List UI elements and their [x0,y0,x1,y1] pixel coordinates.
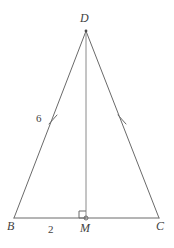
vertex-label-c: C [156,220,164,232]
geometry-diagram: D B M C 6 2 [0,0,174,248]
segment-bd [14,31,86,218]
triangle-figure-svg [0,0,174,248]
right-angle-mark [79,211,86,218]
vertex-label-m: M [80,222,90,234]
point-dot-d [85,30,88,33]
side-length-label-bd: 6 [36,113,42,124]
base-length-label-bm: 2 [48,224,54,235]
segment-dc [86,31,159,218]
vertex-label-d: D [80,12,89,24]
vertex-label-b: B [7,220,14,232]
